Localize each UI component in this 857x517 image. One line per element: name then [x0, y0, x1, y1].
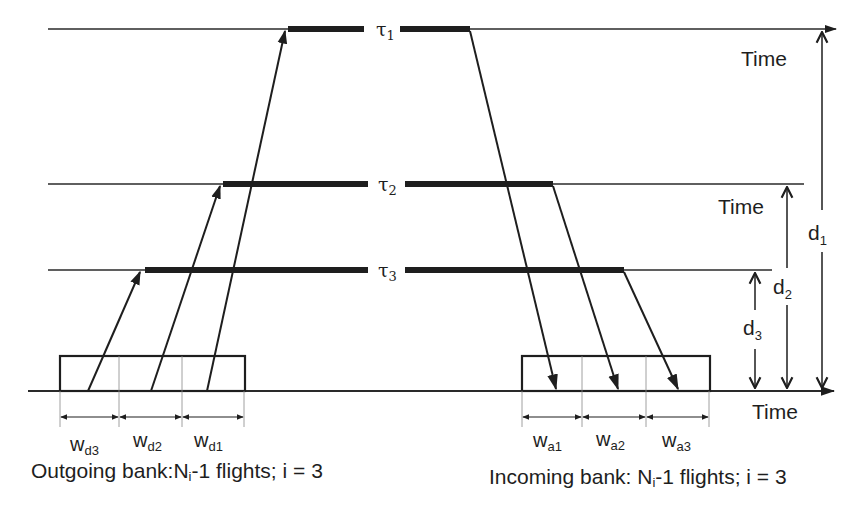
flight-arrow-out-3	[88, 272, 140, 391]
incoming-caption: Incoming bank: Ni-1 flights; i = 3	[489, 465, 787, 490]
incoming-bank: wa1 wa2 wa3 Incoming bank: Ni-1 flights;…	[489, 356, 787, 490]
time-label-tau2: Time	[718, 195, 764, 218]
distance-d2: d2	[773, 187, 792, 388]
window-label-wd3: wd3	[69, 433, 99, 458]
tau3-label: τ3	[378, 259, 397, 284]
time-label-tau1: Time	[741, 47, 787, 70]
distance-d3: d3	[743, 273, 762, 388]
d3-label: d3	[743, 316, 762, 343]
level-tau1: τ1 Time	[48, 18, 836, 70]
window-label-wa2: wa2	[595, 428, 625, 453]
flight-arrow-out-1	[207, 31, 285, 391]
flight-arrow-in-3	[624, 272, 678, 389]
flight-arrow-in-1	[470, 31, 556, 389]
outgoing-caption: Outgoing bank:Ni-1 flights; i = 3	[31, 459, 323, 484]
flight-arrow-in-2	[553, 186, 618, 389]
window-label-wd2: wd2	[132, 429, 162, 454]
window-label-wa3: wa3	[661, 429, 691, 454]
flight-arrow-out-2	[151, 186, 220, 391]
hub-wave-diagram: τ1 Time τ2 Time τ3 Time wd3 wd2 wd1	[0, 0, 857, 517]
level-tau3: τ3	[48, 259, 772, 284]
level-tau2: τ2 Time	[48, 173, 804, 218]
time-label-base: Time	[752, 400, 798, 423]
window-label-wa1: wa1	[532, 429, 562, 454]
d2-label: d2	[773, 275, 792, 302]
outgoing-bank: wd3 wd2 wd1 Outgoing bank:Ni-1 flights; …	[31, 356, 323, 484]
window-label-wd1: wd1	[193, 429, 223, 454]
d1-label: d1	[808, 221, 827, 248]
tau2-label: τ2	[378, 173, 397, 198]
tau1-label: τ1	[376, 18, 395, 43]
distance-d1: d1	[808, 32, 827, 388]
